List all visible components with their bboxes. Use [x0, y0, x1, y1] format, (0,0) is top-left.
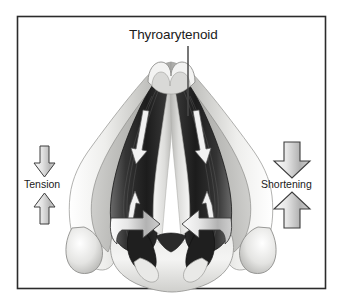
tension-label: Tension — [24, 179, 60, 190]
larynx-illustration — [0, 0, 344, 307]
page-title: Thyroarytenoid — [129, 28, 218, 42]
figure-container: Thyroarytenoid Tension Shortening — [0, 0, 344, 307]
shortening-label: Shortening — [261, 179, 312, 190]
